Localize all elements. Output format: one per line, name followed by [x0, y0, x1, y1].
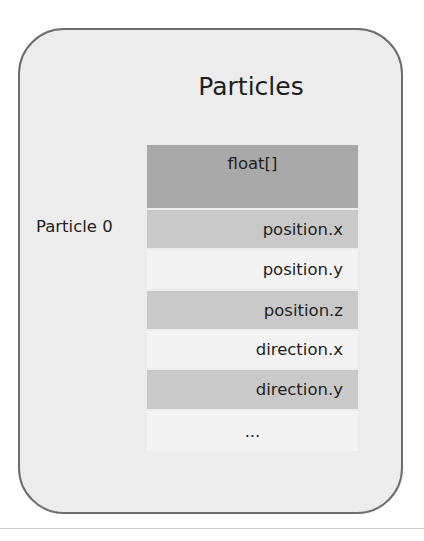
table-row-direction-x: direction.x — [147, 331, 358, 368]
table-row-ellipsis: ... — [147, 411, 358, 451]
table-row-position-y: position.y — [147, 250, 358, 289]
bottom-divider — [0, 528, 424, 529]
table-header-float-array: float[] — [147, 145, 358, 208]
particle-0-label: Particle 0 — [36, 217, 113, 236]
table-row-position-x: position.x — [147, 210, 358, 248]
table-row-position-z: position.z — [147, 291, 358, 329]
table-row-direction-y: direction.y — [147, 370, 358, 409]
diagram-title: Particles — [148, 72, 354, 101]
